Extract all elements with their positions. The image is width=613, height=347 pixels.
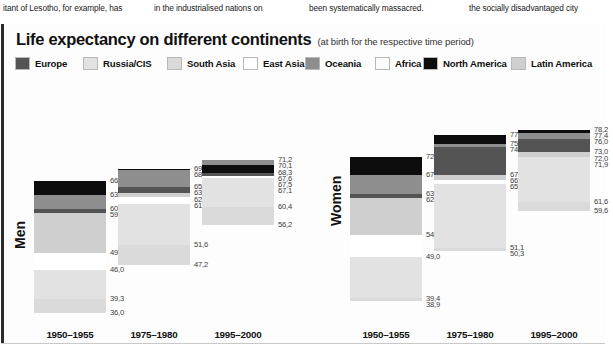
legend-item-europe[interactable]: Europe [15,55,67,72]
legend-swatch-icon [423,57,438,70]
x-axis-category-label: 1950–1955 [34,329,106,340]
legend-label: Africa [395,58,421,69]
bar-segment[interactable] [34,299,106,313]
bar-segment[interactable] [350,175,422,193]
x-axis-category-label: 1995–2000 [518,329,590,340]
bar-segment[interactable] [518,139,590,152]
article-column-2: in the industrialised nations on [148,3,303,13]
bar-segment[interactable] [350,235,422,257]
x-axis-category-label: 1975–1980 [118,329,190,340]
bar-value-label: 59,6 [594,207,608,215]
x-axis-category-label: 1995–2000 [202,329,274,340]
stacked-bar[interactable] [350,157,422,301]
bar-column[interactable]: 66,363,260,059,049,946,039,336,01950–195… [34,74,126,344]
legend-label: North America [443,58,507,69]
bar-segment[interactable] [434,184,506,248]
bar-segment[interactable] [118,204,190,245]
bar-segment[interactable] [202,207,274,225]
bar-segment[interactable] [34,181,106,194]
bar-value-label: 71,9 [594,161,608,169]
bar-column[interactable]: 72,067,763,562,654,149,039,438,91950–195… [350,74,442,344]
legend-item-oceania[interactable]: Oceania [305,55,361,72]
bar-segment[interactable] [118,170,190,187]
legend-label: Latin America [531,58,592,69]
chart-title-row: Life expectancy on different continents … [16,30,474,49]
legend-swatch-icon [305,57,320,70]
legend-item-north-america[interactable]: North America [423,55,507,72]
chart-plot-area: Men66,363,260,059,049,946,039,336,01950–… [4,74,608,344]
bar-segment[interactable] [350,198,422,235]
group-axis-label: Men [12,221,28,249]
bar-segment[interactable] [34,270,106,299]
bar-value-label: 67,1 [278,187,292,195]
bar-segment[interactable] [118,245,190,264]
bar-segment[interactable] [202,178,274,207]
bar-segment[interactable] [202,165,274,173]
article-text-strip: itant of Lesotho, for example, has in th… [0,0,606,22]
stacked-bar[interactable] [202,160,274,225]
bar-segment[interactable] [118,197,190,204]
bar-group-men: Men66,363,260,059,049,946,039,336,01950–… [12,74,302,344]
bar-segment[interactable] [34,253,106,270]
legend-swatch-icon [511,57,526,70]
bar-value-label: 61,6 [594,198,608,206]
bar-column[interactable]: 77,075,074,367,866,765,851,150,31975–198… [434,74,526,344]
bar-group-women: Women72,067,763,562,654,149,039,438,9195… [328,74,613,344]
legend-swatch-icon [375,57,390,70]
stacked-bar[interactable] [34,181,106,313]
bar-segment[interactable] [434,147,506,175]
bar-value-label: 60,4 [278,203,292,211]
bar-segment[interactable] [434,135,506,144]
legend-swatch-icon [243,57,258,70]
bar-segment[interactable] [434,248,506,251]
legend-label: Europe [35,58,67,69]
bar-segment[interactable] [518,202,590,211]
bar-column[interactable]: 71,270,168,367,667,567,160,456,21995–200… [202,74,294,344]
legend-label: Oceania [325,58,361,69]
bar-segment[interactable] [350,298,422,300]
legend-item-russia-cis[interactable]: Russia/CIS [83,55,152,72]
article-column-1: itant of Lesotho, for example, has [0,3,148,13]
legend-item-africa[interactable]: Africa [375,55,421,72]
legend-swatch-icon [167,57,182,70]
stacked-bar[interactable] [518,130,590,211]
x-axis-category-label: 1950–1955 [350,329,422,340]
bar-segment[interactable] [518,157,590,202]
article-column-4: the socially disadvantaged city [461,3,606,13]
bar-value-label: 76,0 [594,138,608,146]
stacked-bar[interactable] [434,135,506,251]
x-axis-category-label: 1975–1980 [434,329,506,340]
legend-label: South Asia [187,58,235,69]
bar-column[interactable]: 69,268,965,063,762,861,151,647,21975–198… [118,74,210,344]
chart-panel: Life expectancy on different continents … [1,24,605,344]
bar-value-label: 56,2 [278,221,292,229]
chart-legend: EuropeRussia/CISSouth AsiaEast AsiaOcean… [15,55,601,72]
chart-subtitle: (at birth for the respective time period… [317,36,473,47]
legend-item-south-asia[interactable]: South Asia [167,55,235,72]
bar-segment[interactable] [350,257,422,299]
article-column-3: been systematically massacred. [303,3,461,13]
bar-segment[interactable] [34,213,106,253]
legend-swatch-icon [15,57,30,70]
bar-segment[interactable] [34,195,106,209]
group-axis-label: Women [328,176,344,226]
bar-segment[interactable] [350,157,422,176]
legend-item-latin-america[interactable]: Latin America [511,55,592,72]
legend-swatch-icon [83,57,98,70]
bar-column[interactable]: 78,277,476,073,072,071,961,659,61995–200… [518,74,610,344]
chart-title: Life expectancy on different continents [16,30,311,49]
legend-item-east-asia[interactable]: East Asia [243,55,305,72]
legend-label: Russia/CIS [103,58,152,69]
stacked-bar[interactable] [118,169,190,265]
legend-label: East Asia [263,58,305,69]
